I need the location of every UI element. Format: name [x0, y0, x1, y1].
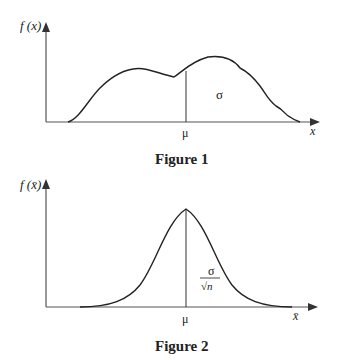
figure-2-sigma-denominator: √n [201, 280, 213, 292]
figure-2-caption: Figure 2 [155, 338, 208, 354]
figure-2-x-axis-label: x̄ [292, 309, 299, 323]
figure-1: f (x) x μ σ Figure 1 [20, 18, 318, 167]
figure-1-mean-label: μ [182, 126, 188, 140]
figure-1-sigma-label: σ [216, 87, 223, 102]
figure-2-y-axis-label: f (x̄) [20, 177, 41, 192]
figure-2: f (x̄) x̄ μ σ √n Figure 2 [20, 177, 316, 354]
diagram-canvas: f (x) x μ σ Figure 1 f (x̄) x̄ μ σ √n Fi… [0, 0, 344, 360]
figure-2-sigma-numerator: σ [208, 264, 215, 278]
figure-2-mean-label: μ [182, 312, 188, 326]
figure-1-density-curve [68, 57, 300, 122]
figure-1-caption: Figure 1 [155, 151, 208, 167]
figure-1-x-axis-label: x [309, 124, 316, 138]
figure-1-y-axis-label: f (x) [20, 18, 41, 33]
